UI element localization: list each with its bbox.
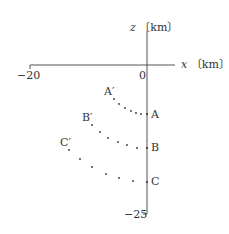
dots-c-row (68, 149, 148, 183)
x-axis-label: x 〔km〕 (181, 59, 229, 71)
point-b-label: B (151, 142, 159, 154)
point-b-prime-label: B′ (82, 112, 93, 124)
point-c-label: C (151, 176, 159, 188)
z-axis-label: z 〔km〕 (130, 22, 178, 34)
z-min-label: −25 (124, 209, 147, 221)
x-min-label: −20 (17, 70, 40, 82)
z-unit: 〔km〕 (139, 21, 178, 34)
diagram-canvas (0, 0, 229, 234)
point-c-prime-label: C′ (60, 137, 71, 149)
dots-b-row (91, 124, 148, 149)
point-a-prime-label: A′ (104, 86, 114, 98)
dots-a-row (113, 98, 148, 115)
z-var: z (130, 21, 136, 34)
point-a-label: A (151, 109, 159, 121)
origin-label: 0 (139, 70, 146, 82)
x-unit: 〔km〕 (191, 58, 229, 71)
x-var: x (181, 58, 187, 71)
